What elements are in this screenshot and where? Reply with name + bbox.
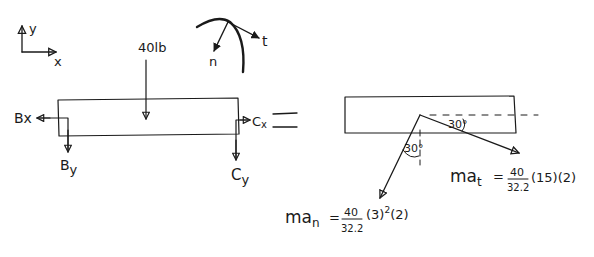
cy-label: Cy [231, 166, 249, 187]
ma-t-numerator: 40 [510, 166, 524, 179]
ma-n-factors: (3)2(2) [366, 205, 409, 222]
ma-n-equation: man = 40 32.2 (3)2(2) [285, 205, 409, 234]
ma-n-numerator: 40 [344, 206, 358, 219]
tangent-label: t [262, 33, 268, 49]
ma-n-lhs: man [285, 207, 320, 230]
ma-t-equals: = [493, 169, 504, 184]
ma-n-denominator: 32.2 [341, 223, 363, 234]
diagram-canvas: y x t n 40lb Bx By Cx Cy [0, 0, 594, 257]
ma-n-arrow [380, 115, 420, 198]
angle-normal-label: 30° [404, 142, 424, 155]
path-nt-coordinates: t n [197, 19, 268, 72]
equals-sign [273, 113, 297, 127]
coordinate-axes: y x [22, 21, 62, 69]
ma-t-lhs: mat [450, 166, 482, 189]
c-reaction-lines [236, 120, 248, 158]
ma-t-arrow [420, 115, 519, 153]
beam-fbd [58, 98, 239, 136]
b-reaction-lines [38, 118, 68, 150]
diagram-svg: y x t n 40lb Bx By Cx Cy [0, 0, 594, 257]
by-label: By [60, 157, 78, 177]
ma-t-equation: mat = 40 32.2 (15)(2) [450, 166, 576, 193]
ma-n-equals: = [329, 210, 340, 225]
angle-tangent-label: 30° [448, 118, 468, 131]
bx-label: Bx [14, 110, 32, 126]
tangent-arrow [228, 22, 259, 38]
free-body-diagram: 40lb Bx By Cx Cy [14, 40, 267, 187]
normal-label: n [209, 54, 217, 69]
ma-t-denominator: 32.2 [507, 182, 529, 193]
cx-label: Cx [252, 114, 267, 130]
y-axis-label: y [29, 21, 37, 36]
x-axis-label: x [54, 54, 62, 69]
ma-t-factors: (15)(2) [531, 170, 576, 185]
load-label: 40lb [138, 40, 166, 55]
normal-arrow [214, 22, 228, 51]
